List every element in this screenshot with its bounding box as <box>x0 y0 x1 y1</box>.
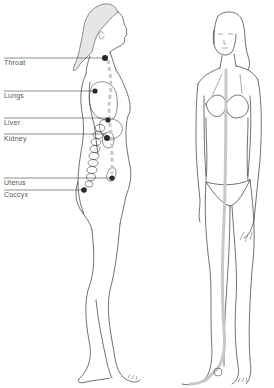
lungs-organ <box>89 82 117 120</box>
front-view-figure <box>182 12 261 385</box>
meridian-channel-side <box>108 60 112 174</box>
label-coccyx: Coccyx <box>4 191 28 198</box>
label-throat: Throat <box>4 59 25 66</box>
label-uterus: Uterus <box>4 179 26 186</box>
meridian-diagram: Throat Lungs Liver Kidney Uterus Coccyx <box>0 0 274 388</box>
label-lungs: Lungs <box>4 92 24 99</box>
coccyx-point <box>81 187 87 193</box>
lungs-point <box>92 88 97 93</box>
throat-point <box>102 55 108 61</box>
kidney-point <box>104 135 110 141</box>
label-kidney: Kidney <box>4 135 27 142</box>
figure-illustration <box>0 0 274 388</box>
meridian-channel-front <box>190 70 226 384</box>
uterus-point <box>109 175 114 180</box>
label-liver: Liver <box>4 119 20 126</box>
liver-point <box>105 117 110 122</box>
